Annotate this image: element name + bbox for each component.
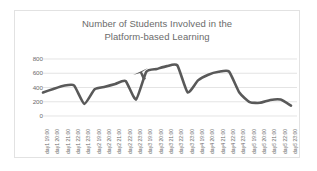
x-axis-tick-label: day1 22:00 (76, 129, 81, 154)
x-axis-tick-label: day1 20:00 (55, 129, 60, 154)
x-axis-tick-label: day3 20:00 (159, 129, 164, 154)
x-axis-tick-label: day2 20:00 (107, 129, 112, 154)
x-axis-tick-label: day4 21:00 (221, 129, 226, 154)
gridlines (43, 59, 297, 116)
x-axis-tick-label: day4 23:00 (241, 129, 246, 154)
x-axis-tick-label: day1 23:00 (86, 129, 91, 154)
x-axis-tick-label: day5 22:00 (283, 129, 288, 154)
x-axis-tick-label: day4 20:00 (210, 129, 215, 154)
x-axis-tick-label: day5 20:00 (262, 129, 267, 154)
plot-area: 8006004002000 day1 19:00day1 20:00day1 2… (15, 11, 301, 159)
x-axis-tick-label: day1 19:00 (45, 129, 50, 154)
x-axis-tick-label: day4 22:00 (231, 129, 236, 154)
x-axis-tick-label: day3 21:00 (169, 129, 174, 154)
x-axis-tick-label: day5 23:00 (293, 129, 298, 154)
x-axis-tick-label: day2 19:00 (97, 129, 102, 154)
x-axis-tick-label: day4 19:00 (200, 129, 205, 154)
x-axis-tick-label: day2 22:00 (128, 129, 133, 154)
chart-container: Number of Students Involved in the Platf… (14, 10, 300, 158)
x-axis-tick-label: day3 23:00 (190, 129, 195, 154)
x-axis-tick-label: day2 21:00 (117, 129, 122, 154)
x-axis-tick-label: day2 23:00 (138, 129, 143, 154)
x-axis-tick-label: day3 22:00 (179, 129, 184, 154)
x-axis-tick-label: day1 21:00 (66, 129, 71, 154)
x-axis-tick-label: day5 21:00 (272, 129, 277, 154)
data-series-line (43, 65, 291, 106)
x-axis-tick-label: day3 19:00 (148, 129, 153, 154)
x-axis-tick-label: day5 19:00 (252, 129, 257, 154)
